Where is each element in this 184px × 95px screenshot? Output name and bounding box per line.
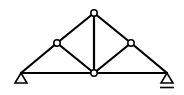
member-c-d — [94, 13, 131, 43]
truss-diagram — [0, 0, 184, 95]
roller-support-icon — [161, 73, 173, 83]
member-a-b — [21, 43, 57, 73]
member-d-f — [94, 43, 131, 73]
node-b — [54, 40, 60, 46]
member-b-f — [57, 43, 94, 73]
truss-members — [21, 13, 167, 73]
node-c — [91, 10, 97, 16]
pin-support-icon — [15, 73, 27, 83]
member-b-c — [57, 13, 94, 43]
node-d — [128, 40, 134, 46]
member-d-e — [131, 43, 167, 73]
node-f — [91, 70, 97, 76]
